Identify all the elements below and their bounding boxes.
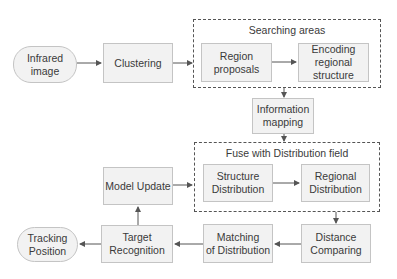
node-label: Encoding regional structure <box>312 43 356 82</box>
node-infrared-image: Infrared image <box>13 46 77 83</box>
node-distance-comparing: Distance Comparing <box>301 224 371 263</box>
node-label: Tracking Position <box>28 232 68 258</box>
node-model-update: Model Update <box>103 167 173 205</box>
node-label: Information mapping <box>257 103 310 129</box>
node-label: Region proposals <box>214 50 260 76</box>
node-tracking-position: Tracking Position <box>17 227 78 262</box>
node-label: Infrared image <box>27 52 63 78</box>
node-encoding-regional-structure: Encoding regional structure <box>298 43 369 82</box>
node-structure-distribution: Structure Distribution <box>203 164 273 202</box>
node-information-mapping: Information mapping <box>252 98 314 134</box>
group-title-searching-areas: Searching areas <box>194 24 380 36</box>
node-target-recognition: Target Recognition <box>101 225 173 263</box>
node-label: Distance Comparing <box>310 231 361 257</box>
group-title-fuse-field: Fuse with Distribution field <box>195 147 379 159</box>
node-regional-distribution: Regional Distribution <box>301 164 370 202</box>
node-matching-of-distribution: Matching of Distribution <box>203 224 273 263</box>
node-label: Clustering <box>114 57 161 70</box>
node-label: Matching of Distribution <box>206 231 270 257</box>
node-label: Model Update <box>105 180 170 193</box>
node-label: Regional Distribution <box>309 170 362 196</box>
node-label: Structure Distribution <box>212 170 265 196</box>
node-region-proposals: Region proposals <box>201 43 272 82</box>
node-clustering: Clustering <box>103 43 173 83</box>
node-label: Target Recognition <box>109 231 164 257</box>
